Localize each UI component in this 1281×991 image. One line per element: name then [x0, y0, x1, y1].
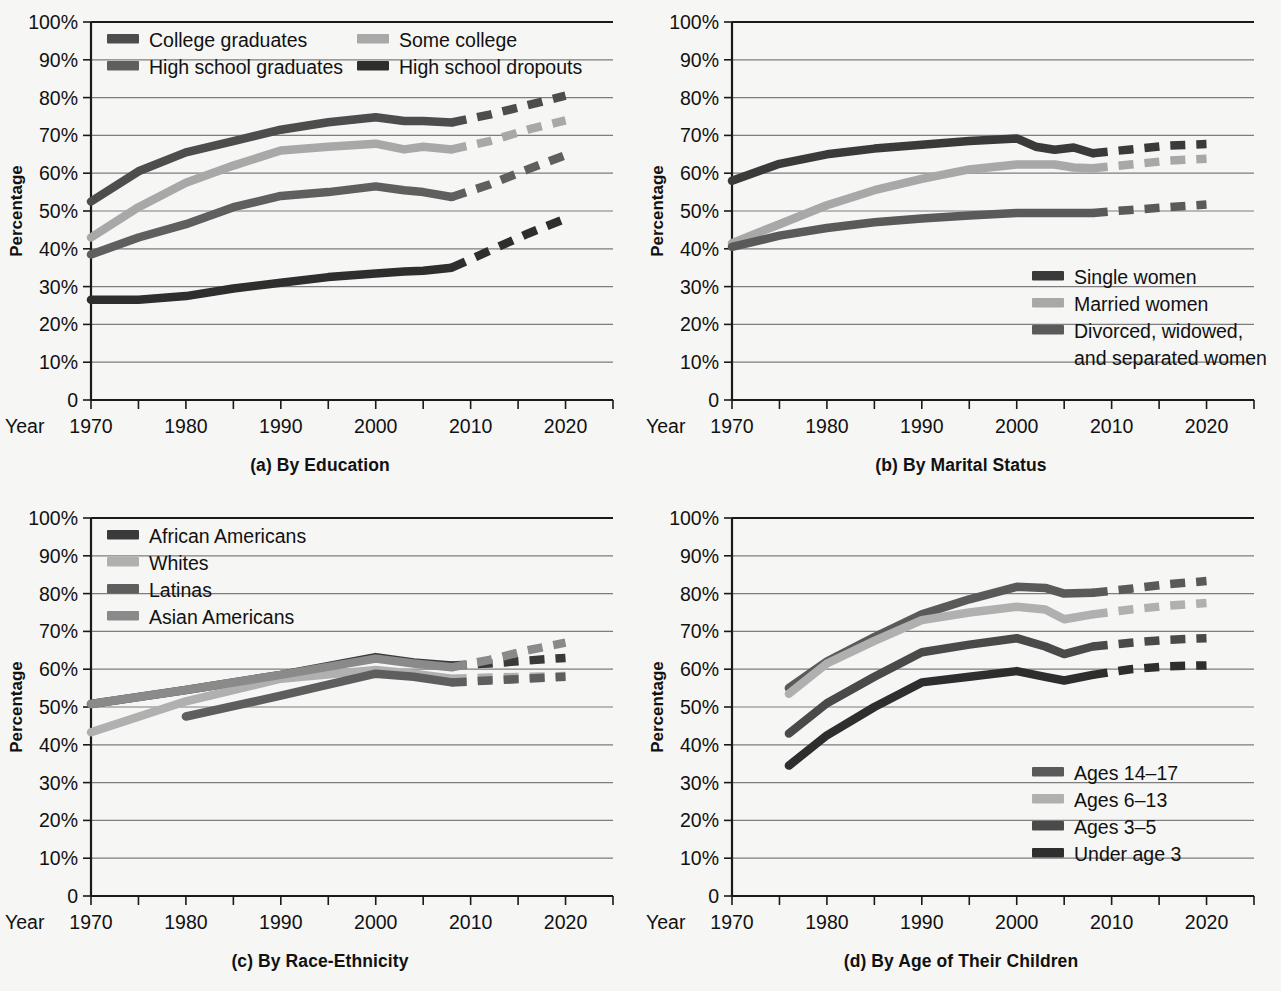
x-axis-label: Year — [646, 415, 686, 437]
y-tick-label: 70% — [680, 620, 719, 642]
x-tick-label: 1990 — [259, 415, 303, 437]
legend-label: Divorced, widowed, — [1074, 320, 1243, 342]
legend-swatch — [1032, 794, 1064, 804]
y-tick-label: 80% — [39, 583, 78, 605]
y-tick-label: 90% — [39, 545, 78, 567]
x-tick-labels: 197019801990200020102020 — [69, 911, 587, 933]
y-tick-label: 20% — [39, 809, 78, 831]
x-tick-label: 2010 — [1090, 911, 1134, 933]
legend-label: Ages 6–13 — [1074, 789, 1167, 811]
y-tick-label: 100% — [28, 507, 78, 529]
y-tick-label: 0 — [708, 389, 719, 411]
y-tick-label: 10% — [39, 351, 78, 373]
x-tick-label: 2000 — [354, 911, 398, 933]
legend-swatch — [107, 611, 139, 621]
legend-label: African Americans — [149, 525, 306, 547]
x-tick-label: 2000 — [995, 911, 1039, 933]
y-tick-labels: 010%20%30%40%50%60%70%80%90%100% — [669, 507, 719, 907]
chart-svg-a: 010%20%30%40%50%60%70%80%90%100%19701980… — [0, 0, 640, 455]
legend-swatch — [1032, 767, 1064, 777]
legend-swatch — [107, 61, 139, 71]
panel-caption-c: (c) By Race-Ethnicity — [0, 951, 640, 972]
x-tick-labels: 197019801990200020102020 — [69, 415, 587, 437]
legend-swatch — [107, 584, 139, 594]
y-tick-label: 10% — [39, 847, 78, 869]
x-tick-label: 1990 — [259, 911, 303, 933]
y-tick-label: 30% — [39, 772, 78, 794]
legend-label: Single women — [1074, 266, 1196, 288]
x-tick-label: 1980 — [164, 911, 208, 933]
legend-label: Some college — [399, 29, 517, 51]
panel-caption-d: (d) By Age of Their Children — [641, 951, 1281, 972]
y-tick-label: 70% — [39, 620, 78, 642]
legend-label: and separated women — [1074, 347, 1267, 369]
y-tick-label: 50% — [680, 200, 719, 222]
y-tick-label: 60% — [680, 162, 719, 184]
y-tick-label: 0 — [67, 885, 78, 907]
legend-label: Ages 3–5 — [1074, 816, 1157, 838]
x-tick-label: 2000 — [995, 415, 1039, 437]
x-tick-label: 2020 — [544, 415, 588, 437]
x-tick-label: 2010 — [449, 415, 493, 437]
y-axis-label: Percentage — [7, 165, 26, 257]
legend-label: Whites — [149, 552, 209, 574]
y-tick-label: 40% — [39, 734, 78, 756]
legend-label: Married women — [1074, 293, 1208, 315]
y-axis-label: Percentage — [648, 165, 667, 257]
y-tick-label: 90% — [680, 545, 719, 567]
legend-label: High school graduates — [149, 56, 343, 78]
y-tick-label: 0 — [67, 389, 78, 411]
y-tick-label: 20% — [39, 313, 78, 335]
y-tick-label: 40% — [680, 734, 719, 756]
y-tick-label: 30% — [680, 772, 719, 794]
x-tick-labels: 197019801990200020102020 — [710, 911, 1228, 933]
y-tick-label: 20% — [680, 313, 719, 335]
legend-label: Ages 14–17 — [1074, 762, 1178, 784]
y-tick-label: 80% — [39, 87, 78, 109]
x-tick-label: 2020 — [1185, 415, 1229, 437]
x-axis-label: Year — [5, 911, 45, 933]
y-tick-label: 60% — [39, 658, 78, 680]
x-tick-label: 1970 — [69, 415, 113, 437]
x-tick-label: 1970 — [710, 911, 754, 933]
y-tick-label: 70% — [39, 124, 78, 146]
legend-label: Latinas — [149, 579, 212, 601]
y-tick-label: 100% — [669, 11, 719, 33]
y-tick-label: 40% — [680, 238, 719, 260]
legend-swatch — [1032, 271, 1064, 281]
legend-label: Under age 3 — [1074, 843, 1181, 865]
x-tick-label: 1990 — [900, 911, 944, 933]
y-tick-label: 10% — [680, 351, 719, 373]
panel-caption-b: (b) By Marital Status — [641, 455, 1281, 476]
chart-panel-c: 010%20%30%40%50%60%70%80%90%100%19701980… — [0, 496, 640, 991]
x-tick-label: 1990 — [900, 415, 944, 437]
legend-swatch — [357, 61, 389, 71]
legend-swatch — [1032, 325, 1064, 335]
y-tick-label: 50% — [680, 696, 719, 718]
x-axis-label: Year — [646, 911, 686, 933]
y-tick-labels: 010%20%30%40%50%60%70%80%90%100% — [669, 11, 719, 411]
legend-swatch — [357, 34, 389, 44]
legend-label: College graduates — [149, 29, 308, 51]
y-tick-label: 40% — [39, 238, 78, 260]
x-tick-label: 2020 — [544, 911, 588, 933]
y-tick-label: 20% — [680, 809, 719, 831]
y-tick-label: 60% — [39, 162, 78, 184]
legend-swatch — [1032, 848, 1064, 858]
chart-svg-c: 010%20%30%40%50%60%70%80%90%100%19701980… — [0, 496, 640, 951]
y-tick-label: 30% — [680, 276, 719, 298]
legend-swatch — [1032, 821, 1064, 831]
chart-panel-b: 010%20%30%40%50%60%70%80%90%100%19701980… — [641, 0, 1281, 495]
legend-swatch — [1032, 298, 1064, 308]
x-tick-label: 1980 — [805, 911, 849, 933]
x-tick-label: 2010 — [1090, 415, 1134, 437]
y-tick-label: 100% — [28, 11, 78, 33]
y-axis-label: Percentage — [648, 661, 667, 753]
legend-swatch — [107, 557, 139, 567]
y-axis-label: Percentage — [7, 661, 26, 753]
y-tick-label: 10% — [680, 847, 719, 869]
chart-panel-a: 010%20%30%40%50%60%70%80%90%100%19701980… — [0, 0, 640, 495]
y-tick-label: 0 — [708, 885, 719, 907]
x-axis-label: Year — [5, 415, 45, 437]
y-tick-label: 90% — [39, 49, 78, 71]
